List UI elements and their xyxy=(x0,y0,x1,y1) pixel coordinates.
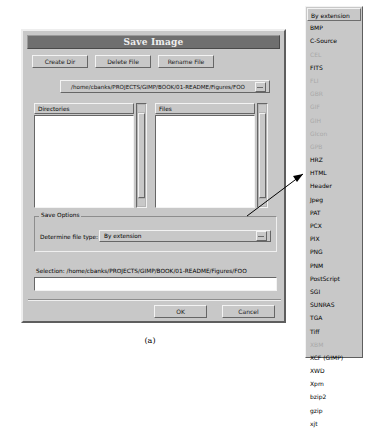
file-type-option-menu[interactable]: By extension xyxy=(99,230,271,242)
file-type-menu-item[interactable]: PAT xyxy=(307,206,361,219)
file-type-menu-item: XBM xyxy=(307,338,361,351)
file-type-menu-item: GPB xyxy=(307,140,361,153)
file-type-menu-item: GIF xyxy=(307,100,361,113)
scroll-down-icon[interactable] xyxy=(259,199,266,206)
file-type-menu-item: FLI xyxy=(307,74,361,87)
directories-pane: Directories xyxy=(34,103,134,208)
path-option-menu[interactable]: /home/cbanks/PROJECTS/GIMP/BOOK/01-READM… xyxy=(60,80,270,93)
scrollbar-thumb[interactable] xyxy=(138,113,145,198)
directories-pane-label: Directories xyxy=(34,103,134,114)
file-type-option-menu-value: By extension xyxy=(100,233,256,239)
files-pane-label: Files xyxy=(155,103,255,114)
scroll-up-icon[interactable] xyxy=(259,105,266,112)
directories-scrollbar[interactable] xyxy=(136,103,147,208)
save-image-dialog: Save Image Create Dir Delete File Rename… xyxy=(21,29,286,323)
path-option-menu-value: /home/cbanks/PROJECTS/GIMP/BOOK/01-READM… xyxy=(61,84,255,90)
file-type-menu-item[interactable]: PIX xyxy=(307,232,361,245)
option-menu-grip-icon xyxy=(256,231,267,241)
divider xyxy=(28,299,281,301)
files-pane: Files xyxy=(155,103,255,208)
scrollbar-thumb[interactable] xyxy=(259,113,266,198)
file-type-menu-item[interactable]: C-Source xyxy=(307,34,361,47)
file-type-menu-item[interactable]: gzip xyxy=(307,404,361,417)
scroll-up-icon[interactable] xyxy=(138,105,145,112)
file-type-menu-item[interactable]: HTML xyxy=(307,166,361,179)
files-list[interactable] xyxy=(155,115,255,208)
file-type-menu-item[interactable]: Xpm xyxy=(307,377,361,390)
file-type-menu-item[interactable]: PCX xyxy=(307,219,361,232)
scroll-down-icon[interactable] xyxy=(138,199,145,206)
directories-list[interactable] xyxy=(34,115,134,208)
file-type-menu-item[interactable]: PNM xyxy=(307,259,361,272)
file-type-menu-item[interactable]: XWD xyxy=(307,364,361,377)
dialog-action-buttons: Create Dir Delete File Rename File xyxy=(32,55,214,68)
file-type-menu-item[interactable]: BMP xyxy=(307,21,361,34)
file-type-menu-item[interactable]: By extension xyxy=(307,8,361,21)
dialog-titlebar: Save Image xyxy=(27,35,280,49)
file-type-menu-item: GIcon xyxy=(307,127,361,140)
file-type-menu[interactable]: By extensionBMPC-SourceCELFITSFLIGBRGIFG… xyxy=(305,6,363,358)
file-type-menu-item[interactable]: Tiff xyxy=(307,325,361,338)
file-type-menu-item[interactable]: TGA xyxy=(307,311,361,324)
rename-file-button[interactable]: Rename File xyxy=(158,55,214,68)
file-type-menu-item[interactable]: SGI xyxy=(307,285,361,298)
ok-button[interactable]: OK xyxy=(154,305,207,318)
file-type-menu-item[interactable]: Jpeg xyxy=(307,193,361,206)
file-type-menu-item: CEL xyxy=(307,48,361,61)
create-dir-button[interactable]: Create Dir xyxy=(32,55,88,68)
file-type-menu-item[interactable]: HRZ xyxy=(307,153,361,166)
file-type-menu-item[interactable]: FITS xyxy=(307,61,361,74)
option-menu-grip-icon xyxy=(255,82,266,92)
delete-file-button[interactable]: Delete File xyxy=(95,55,151,68)
file-type-menu-item: GBR xyxy=(307,87,361,100)
file-type-menu-item[interactable]: Header xyxy=(307,179,361,192)
file-type-menu-item[interactable]: SUNRAS xyxy=(307,298,361,311)
figure-caption: (a) xyxy=(0,336,300,345)
save-options-label: Save Options xyxy=(39,212,81,218)
dialog-title: Save Image xyxy=(123,37,183,47)
file-type-menu-item[interactable]: bzip2 xyxy=(307,390,361,403)
file-type-menu-item[interactable]: PNG xyxy=(307,245,361,258)
file-type-menu-item: GIH xyxy=(307,114,361,127)
determine-file-type-label: Determine file type: xyxy=(40,234,98,240)
cancel-button[interactable]: Cancel xyxy=(222,305,275,318)
file-type-menu-item[interactable]: xjt xyxy=(307,417,361,430)
file-type-menu-item[interactable]: PostScript xyxy=(307,272,361,285)
selection-input[interactable] xyxy=(34,277,277,291)
file-type-menu-item[interactable]: XCF (GIMP) xyxy=(307,351,361,364)
files-scrollbar[interactable] xyxy=(257,103,268,208)
selection-label: Selection: /home/cbanks/PROJECTS/GIMP/BO… xyxy=(36,268,247,274)
